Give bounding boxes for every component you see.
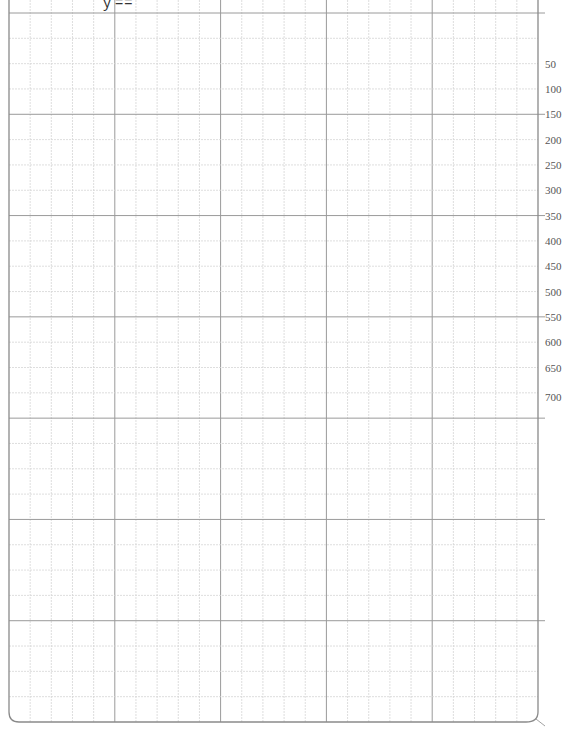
- ruler-label: 700: [545, 391, 562, 403]
- ruler-label: 100: [545, 83, 562, 95]
- ruler-label: 450: [545, 260, 562, 272]
- ruler-label: 250: [545, 159, 562, 171]
- ruler-label: 500: [545, 286, 562, 298]
- ruler-label: 400: [545, 235, 562, 247]
- ruler-label: 150: [545, 108, 562, 120]
- grid-lines: [0, 0, 577, 752]
- graph-paper-sheet: ｙ== 501001502002503003504004505005506006…: [0, 0, 577, 752]
- ruler-label: 550: [545, 311, 562, 323]
- ruler-label: 650: [545, 362, 562, 374]
- ruler-label: 200: [545, 134, 562, 146]
- ruler-label: 50: [545, 58, 556, 70]
- ruler-label: 300: [545, 184, 562, 196]
- ruler-label: 600: [545, 336, 562, 348]
- ruler-label: 350: [545, 210, 562, 222]
- clipped-heading-fragment: ｙ==: [100, 0, 133, 11]
